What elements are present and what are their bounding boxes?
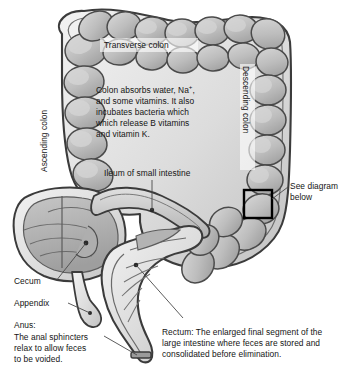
label-see-diagram-line2: below <box>290 192 312 203</box>
label-ileum: Ileum of small intestine <box>104 168 190 179</box>
note-rectum-line2: large intestine where feces are stored a… <box>162 338 320 349</box>
label-cecum: Cecum <box>14 276 41 287</box>
note-anus-line3: to be voided. <box>14 354 63 365</box>
note-anus-line2: relax to allow feces <box>14 343 86 354</box>
note-colon-function: Colon absorbs water, Na+, <box>96 85 195 96</box>
note-colon-function-line4: which release B vitamins <box>96 118 189 129</box>
note-anus-heading: Anus: <box>14 320 36 331</box>
label-descending-colon: Descending colon <box>240 66 251 133</box>
label-ascending-colon: Ascending colon <box>39 110 50 172</box>
label-see-diagram-line1: See diagram <box>290 181 338 192</box>
note-colon-function-line5: and vitamin K. <box>96 129 150 140</box>
label-transverse-colon: Transverse colon <box>104 40 169 51</box>
label-appendix: Appendix <box>14 298 49 309</box>
note-rectum-line3: consolidated before elimination. <box>162 349 281 360</box>
note-rectum-line1: Rectum: The enlarged final segment of th… <box>162 327 322 338</box>
note-anus-line1: The anal sphincters <box>14 332 88 343</box>
note-colon-function-line1-b: , <box>193 85 195 95</box>
diagram-canvas: Transverse colon Ascending colon Descend… <box>0 0 353 367</box>
note-colon-function-line2: and some vitamins. It also <box>96 96 194 107</box>
note-colon-function-line1-a: Colon absorbs water, Na <box>96 85 189 95</box>
note-colon-function-line3: incubates bacteria which <box>96 107 189 118</box>
